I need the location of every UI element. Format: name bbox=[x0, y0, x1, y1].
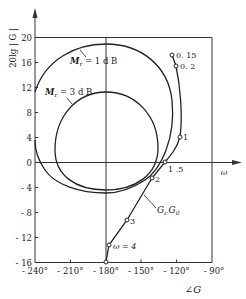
x-axis-arrow-icon bbox=[232, 160, 242, 165]
zero-db-axis bbox=[35, 160, 242, 165]
label-1: 1 bbox=[183, 133, 188, 142]
y-tick-label: 8 bbox=[27, 108, 32, 118]
mr-3db-label: Mr = 3 d B bbox=[44, 87, 92, 98]
omega-axis-label: ω bbox=[221, 168, 228, 177]
x-tick-label: - 150° bbox=[128, 266, 154, 276]
y-tick-label: 16 bbox=[21, 58, 32, 68]
y-axis-label: 20lg | G | bbox=[8, 28, 19, 68]
y-tick-label: 12 bbox=[21, 83, 32, 93]
y-tick-label: - 12 bbox=[16, 233, 32, 243]
marker-omega-4 bbox=[107, 243, 111, 247]
label-3: 3 bbox=[130, 217, 135, 226]
marker-omega-1 bbox=[178, 135, 182, 139]
x-tick-label: - 240° bbox=[22, 266, 48, 276]
marker-omega-2 bbox=[150, 176, 154, 180]
y-tick-label: 4 bbox=[27, 133, 32, 143]
plot-frame bbox=[35, 38, 212, 263]
gcg0-leader bbox=[144, 195, 156, 208]
nichols-chart: 20 16 12 8 4 0 - 4 - 8 - 12 - 16 - 240° … bbox=[0, 0, 246, 299]
y-tick-label: 0 bbox=[27, 158, 32, 168]
label-1-5: 1 .5 bbox=[168, 165, 183, 174]
x-axis-label: ∠G bbox=[185, 284, 201, 295]
label-omega-4: ω = 4 bbox=[113, 242, 136, 251]
y-axis-arrow-icon bbox=[33, 8, 38, 18]
y-axis bbox=[33, 8, 38, 263]
frequency-markers bbox=[104, 53, 182, 264]
x-tick-label: - 210° bbox=[57, 266, 83, 276]
x-tick-label: - 120° bbox=[164, 266, 190, 276]
x-tick-labels: - 240° - 210° - 180° - 150° - 120° - 90° bbox=[22, 266, 224, 276]
marker-omega-0-2 bbox=[174, 64, 178, 68]
marker-end bbox=[104, 260, 108, 264]
mr-1db-label: Mr = 1 d B bbox=[69, 56, 117, 67]
label-2: 2 bbox=[155, 175, 160, 184]
marker-omega-3 bbox=[125, 218, 129, 222]
gcg0-curve bbox=[106, 55, 181, 262]
x-tick-label: - 180° bbox=[93, 266, 119, 276]
x-tick-label: - 90° bbox=[204, 266, 225, 276]
y-tick-labels: 20 16 12 8 4 0 - 4 - 8 - 12 - 16 bbox=[16, 33, 32, 268]
y-tick-label: - 4 bbox=[21, 183, 32, 193]
gcg0-label: GcG0 bbox=[157, 205, 180, 216]
label-0-2: 0. 2 bbox=[180, 62, 195, 71]
y-tick-label: - 8 bbox=[21, 208, 32, 218]
marker-omega-1-5 bbox=[163, 160, 167, 164]
y-tick-label: 20 bbox=[21, 33, 32, 43]
marker-omega-0-15 bbox=[170, 53, 174, 57]
mr3-leader bbox=[67, 98, 72, 104]
label-0-15: 0. 15 bbox=[176, 51, 196, 60]
